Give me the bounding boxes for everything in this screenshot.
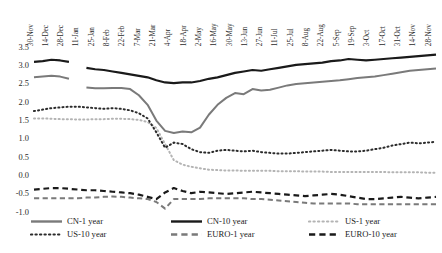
x-axis-tick: 28-Nov	[425, 24, 432, 46]
legend-swatch-icon	[308, 230, 341, 239]
y-axis-tick: 2.5	[19, 80, 29, 88]
legend-swatch-icon	[170, 217, 203, 226]
y-axis-tick: 2.0	[19, 99, 29, 107]
x-axis-tick: 14-Dec	[43, 25, 50, 46]
x-axis-tick: 11-Jul	[272, 28, 279, 46]
y-axis-tick: -0.5	[16, 190, 29, 198]
chart-figure: 30-Nov14-Dec28-Dec11-Jan25-Jan8-Feb22-Fe…	[0, 0, 442, 253]
x-axis-tick: 13-Jun	[242, 26, 249, 46]
legend-item-us-1-year[interactable]: US-1 year	[308, 216, 380, 227]
legend-item-euro-1-year[interactable]: EURO-1 year	[170, 229, 255, 240]
x-axis-tick: 5-Sep	[333, 29, 340, 46]
x-axis-tick: 8-Feb	[104, 29, 111, 46]
x-axis-tick: 17-Oct	[379, 26, 386, 46]
x-axis-tick: 4-Apr	[165, 29, 172, 46]
y-axis-tick: -1.0	[16, 209, 29, 217]
y-axis-tick: 3.0	[19, 62, 29, 70]
legend-label: CN-1 year	[67, 217, 103, 226]
y-axis-tick: 0.0	[19, 172, 29, 180]
legend-item-cn-1-year[interactable]: CN-1 year	[30, 216, 103, 227]
x-axis-tick: 25-Jul	[288, 28, 295, 46]
chart-legend: CN-1 yearCN-10 yearUS-1 yearUS-10 yearEU…	[30, 216, 442, 250]
legend-label: US-10 year	[67, 230, 106, 239]
x-axis-tick: 28-Dec	[58, 25, 65, 46]
x-axis-tick: 14-Nov	[410, 24, 417, 46]
legend-label: US-1 year	[345, 217, 380, 226]
x-axis-tick: 31-Oct	[395, 26, 402, 46]
legend-swatch-icon	[170, 230, 203, 239]
x-axis-tick: 19-Sep	[349, 26, 356, 46]
legend-swatch-icon	[308, 217, 341, 226]
plot-area	[32, 48, 438, 213]
legend-swatch-icon	[30, 230, 63, 239]
x-axis-tick: 16-May	[211, 23, 218, 46]
series-us-1-year	[34, 118, 436, 172]
x-axis-tick: 11-Jan	[73, 27, 80, 46]
x-axis-tick: 22-Feb	[119, 26, 126, 46]
legend-label: CN-10 year	[207, 217, 247, 226]
x-axis-tick-labels: 30-Nov14-Dec28-Dec11-Jan25-Jan8-Feb22-Fe…	[0, 0, 442, 46]
series-euro-1-year	[34, 197, 436, 209]
x-axis-tick: 21-Mar	[150, 24, 157, 46]
series-cn-1-year	[34, 69, 436, 134]
x-axis-tick: 30-May	[226, 23, 233, 46]
y-axis-tick: 3.5	[19, 44, 29, 52]
y-axis-tick: 1.0	[19, 135, 29, 143]
x-axis-tick: 8-Aug	[303, 28, 310, 46]
x-axis-tick: 18-Apr	[180, 25, 187, 46]
series-us-10-year	[34, 107, 436, 154]
x-axis-tick: 25-Jan	[89, 27, 96, 46]
x-axis-tick: 2-May	[196, 27, 203, 46]
x-axis-tick: 7-Mar	[134, 28, 141, 46]
x-axis-tick: 3-Oct	[364, 30, 371, 46]
series-canvas	[32, 48, 438, 213]
legend-label: EURO-10 year	[345, 230, 397, 239]
y-axis-tick: 0.5	[19, 154, 29, 162]
y-axis-tick: 1.5	[19, 117, 29, 125]
legend-item-euro-10-year[interactable]: EURO-10 year	[308, 229, 397, 240]
legend-item-us-10-year[interactable]: US-10 year	[30, 229, 106, 240]
x-axis-tick: 22-Aug	[318, 24, 325, 46]
y-axis-tick-labels: 3.53.02.52.01.51.00.50.0-0.5-1.0	[0, 0, 32, 253]
series-cn-10-year	[34, 55, 436, 84]
legend-swatch-icon	[30, 217, 63, 226]
legend-item-cn-10-year[interactable]: CN-10 year	[170, 216, 247, 227]
legend-label: EURO-1 year	[207, 230, 255, 239]
x-axis-tick: 27-Jun	[257, 26, 264, 46]
